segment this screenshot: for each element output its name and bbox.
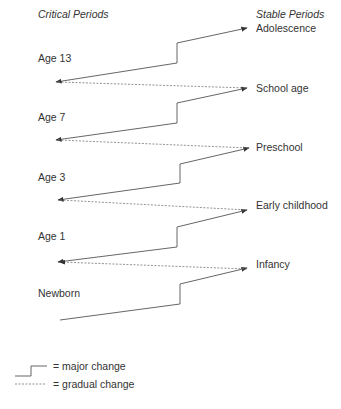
- major-change-newborn-infancy: [60, 268, 247, 320]
- legend-major-change-icon: [15, 366, 47, 376]
- gradual-change-early-childhood-age3: [60, 200, 247, 210]
- major-change-age3-preschool: [58, 148, 249, 200]
- legend-major-change-label: = major change: [53, 360, 126, 372]
- gradual-change-preschool-age7: [58, 140, 249, 148]
- gradual-change-school-age-age13: [58, 82, 247, 88]
- connector-lines: [0, 0, 341, 409]
- major-change-age13-adolescence: [56, 28, 247, 82]
- major-change-age7-school-age: [56, 88, 247, 140]
- gradual-change-infancy-age1: [60, 262, 247, 269]
- legend-gradual-change-label: = gradual change: [53, 378, 134, 390]
- major-change-age1-early-childhood: [58, 210, 247, 262]
